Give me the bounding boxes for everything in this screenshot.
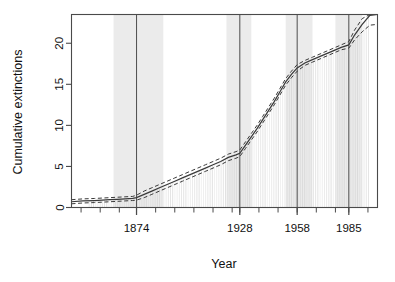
rug-bar xyxy=(203,169,204,207)
cumulative-extinctions-plot: 05101520 1874192819581985 Year Cumulativ… xyxy=(0,0,395,282)
rug-bar xyxy=(245,146,246,207)
rug-bar xyxy=(174,181,175,207)
rug-bar xyxy=(311,60,312,207)
rug-bar xyxy=(238,154,239,208)
rug-bar xyxy=(199,171,200,208)
rug-bar xyxy=(368,17,369,207)
rug-bar xyxy=(243,149,244,207)
rug-bar xyxy=(282,88,283,208)
rug-bar xyxy=(357,32,358,208)
rug-bar xyxy=(298,68,299,208)
rug-bar xyxy=(344,46,345,207)
rug-bar xyxy=(221,162,222,208)
rug-bar xyxy=(190,175,191,208)
rug-bar xyxy=(210,166,211,207)
rug-bar xyxy=(293,72,294,207)
rug-bar xyxy=(93,201,94,208)
rug-bar xyxy=(227,158,228,208)
rug-bar xyxy=(126,199,127,208)
rug-bar xyxy=(353,38,354,207)
rug-bar xyxy=(280,92,281,208)
rug-bar xyxy=(196,172,197,208)
rug-bar xyxy=(146,194,147,208)
rug-bar xyxy=(366,20,367,207)
rug-bar xyxy=(359,28,360,207)
x-tick-label-1874: 1874 xyxy=(124,222,150,234)
rug-bar xyxy=(214,164,215,207)
y-tick-label-10: 10 xyxy=(54,119,66,132)
rug-bar xyxy=(295,70,296,208)
rug-bar xyxy=(324,55,325,208)
rug-bar xyxy=(117,199,118,207)
rug-bar xyxy=(304,63,305,207)
y-axis-title: Cumulative extinctions xyxy=(11,49,25,174)
rug-bar xyxy=(98,200,99,207)
x-tick-label-1958: 1958 xyxy=(284,222,310,234)
rug-bar xyxy=(265,117,266,208)
rug-bar xyxy=(337,49,338,207)
rug-bar xyxy=(188,176,189,208)
rug-bar xyxy=(229,157,230,207)
rug-bar xyxy=(306,62,307,207)
rug-bar xyxy=(144,195,145,208)
rug-bar xyxy=(89,201,90,208)
rug-bar xyxy=(148,193,149,208)
rug-bar xyxy=(150,192,151,208)
rug-bar xyxy=(95,200,96,207)
rug-bar xyxy=(172,182,173,207)
rug-bar xyxy=(260,124,261,208)
rug-bar xyxy=(278,95,279,207)
rug-bar xyxy=(267,113,268,207)
rug-bar xyxy=(317,58,318,208)
rug-bar xyxy=(124,199,125,208)
rug-bar xyxy=(320,57,321,208)
rug-bar xyxy=(133,198,134,207)
rug-bar xyxy=(177,180,178,207)
rug-bar xyxy=(225,159,226,207)
x-tick-label-1928: 1928 xyxy=(227,222,253,234)
rug-bar xyxy=(201,170,202,207)
rug-bar xyxy=(361,25,362,207)
rug-bar xyxy=(256,130,257,207)
rug-bar xyxy=(262,120,263,207)
rug-bar xyxy=(247,143,248,208)
y-tick-label-15: 15 xyxy=(54,78,66,91)
rug-bar xyxy=(223,160,224,207)
rug-bar xyxy=(137,197,138,207)
rug-bar xyxy=(109,200,110,208)
rug-bar xyxy=(111,200,112,208)
rug-bar xyxy=(91,201,92,208)
rug-bar xyxy=(102,200,103,207)
rug-bar xyxy=(328,53,329,208)
rug-bar xyxy=(339,48,340,207)
rug-bar xyxy=(185,177,186,208)
rug-bar xyxy=(106,200,107,208)
x-tick-label-1985: 1985 xyxy=(336,222,362,234)
rug-bar xyxy=(192,174,193,208)
rug-bar xyxy=(128,199,129,208)
rug-bar xyxy=(120,199,121,207)
rug-bar xyxy=(155,190,156,208)
rug-bar xyxy=(131,199,132,208)
rug-bar xyxy=(326,54,327,208)
rug-bar xyxy=(152,191,153,208)
rug-bar xyxy=(300,66,301,207)
rug-bar xyxy=(113,200,114,208)
shaded-band-3 xyxy=(286,15,313,208)
rug-bar xyxy=(207,167,208,207)
rug-bar xyxy=(342,47,343,207)
rug-bar xyxy=(218,162,219,207)
rug-bar xyxy=(122,199,123,207)
rug-bar xyxy=(100,200,101,207)
rug-bar xyxy=(166,185,167,207)
rug-bar xyxy=(313,59,314,207)
rug-bar xyxy=(205,168,206,207)
y-tick-label-0: 0 xyxy=(54,204,66,210)
rug-bar xyxy=(287,81,288,208)
rug-bar xyxy=(271,106,272,207)
rug-bar xyxy=(273,103,274,208)
rug-bar xyxy=(333,51,334,208)
rug-bar xyxy=(258,127,259,207)
rug-bar xyxy=(236,155,237,208)
extinctions-chart-figure: 05101520 1874192819581985 Year Cumulativ… xyxy=(0,0,395,282)
